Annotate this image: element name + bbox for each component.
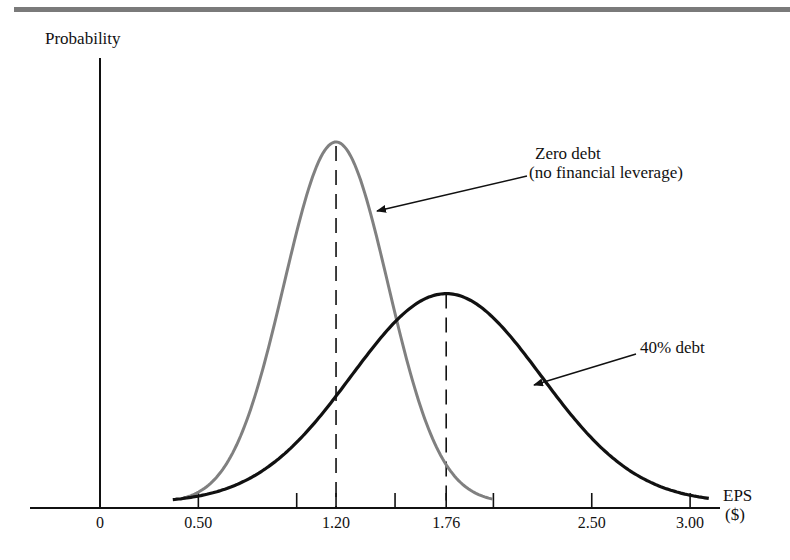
zero-debt-arrow <box>377 176 527 211</box>
x-tick-label: 0.50 <box>184 514 212 532</box>
x-tick-label: 3.00 <box>676 514 704 532</box>
y-axis-label: Probability <box>45 29 121 49</box>
x-axis-ticks <box>198 493 690 508</box>
forty-debt-arrow <box>534 354 636 385</box>
zero-debt-label-line2: (no financial leverage) <box>529 163 683 183</box>
forty-debt-label: 40% debt <box>640 338 705 358</box>
x-axis-label-unit: ($) <box>725 505 745 525</box>
x-tick-label: 0 <box>96 514 104 532</box>
x-tick-label: 1.76 <box>432 514 460 532</box>
zero-debt-label-line1: Zero debt <box>535 144 601 164</box>
eps-probability-chart <box>0 0 790 560</box>
x-tick-label: 2.50 <box>578 514 606 532</box>
x-tick-label: 1.20 <box>322 514 350 532</box>
x-axis-label-eps: EPS <box>723 486 752 506</box>
